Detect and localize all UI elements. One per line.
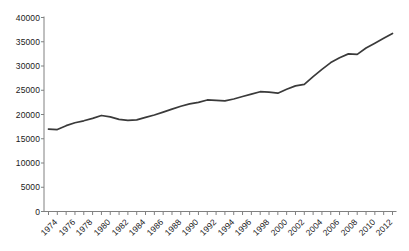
x-tick-label: 1974 (39, 217, 60, 238)
x-tick-label: 1996 (233, 217, 254, 238)
x-tick-label: 2000 (268, 217, 289, 238)
x-tick-label: 1990 (180, 217, 201, 238)
x-tick-label: 1992 (198, 217, 219, 238)
x-tick-label: 1980 (92, 217, 113, 238)
data-series-line (49, 34, 393, 130)
x-tick-label: 2004 (303, 217, 324, 238)
x-tick-label: 1988 (162, 217, 183, 238)
x-tick-label: 1982 (109, 217, 130, 238)
x-tick-label: 2006 (321, 217, 342, 238)
line-chart: 0500010000150002000025000300003500040000… (0, 0, 409, 251)
x-tick-label: 1976 (56, 217, 77, 238)
x-tick-label: 2012 (374, 217, 395, 238)
x-tick-label: 2008 (339, 217, 360, 238)
plot-area (0, 0, 409, 251)
x-tick-label: 1994 (215, 217, 236, 238)
x-tick-label: 1984 (127, 217, 148, 238)
x-tick-label: 2002 (286, 217, 307, 238)
x-tick-label: 2010 (356, 217, 377, 238)
x-axis-labels: 1974197619781980198219841986198819901992… (0, 215, 409, 251)
x-tick-label: 1998 (251, 217, 272, 238)
x-tick-label: 1978 (74, 217, 95, 238)
x-tick-label: 1986 (145, 217, 166, 238)
